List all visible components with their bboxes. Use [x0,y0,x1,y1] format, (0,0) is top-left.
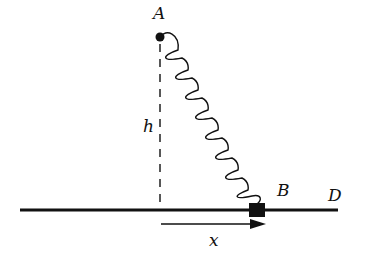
label-b: B [276,180,290,200]
label-x: x [209,230,219,250]
label-h: h [143,116,154,136]
label-d: D [327,185,342,205]
block-b [249,203,265,217]
spring-coil [160,33,260,204]
spring-block-diagram: A h B D x [0,0,371,262]
label-a: A [151,3,165,23]
displacement-arrow-head [250,219,266,229]
